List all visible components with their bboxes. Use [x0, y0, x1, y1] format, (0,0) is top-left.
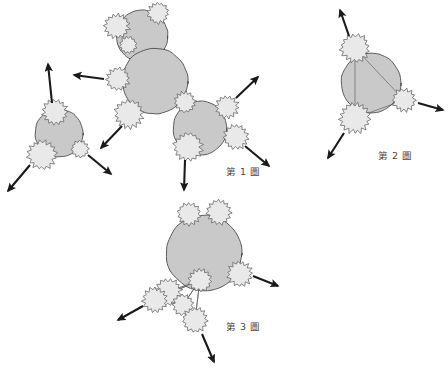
figure-2-caption: 第 2 圖 [378, 148, 413, 162]
direction-arrow [8, 165, 30, 191]
figure-3-caption: 第 3 圖 [226, 319, 261, 333]
satellite-particle [174, 91, 196, 113]
satellite-particle [183, 308, 209, 333]
direction-arrow [101, 126, 122, 148]
satellite-particle [223, 124, 249, 149]
direction-arrow [118, 306, 143, 320]
direction-arrow [340, 10, 349, 36]
satellite-particle [119, 36, 137, 53]
direction-arrow [48, 64, 52, 103]
direction-arrow [74, 75, 104, 79]
direction-arrow [184, 160, 185, 190]
direction-arrow [236, 77, 258, 98]
cell-body [341, 53, 401, 113]
direction-arrow [88, 155, 111, 174]
patent-figure-sheet [0, 0, 448, 374]
figure-1-caption: 第 1 圖 [226, 164, 261, 178]
direction-arrow [202, 334, 214, 362]
direction-arrow [245, 146, 269, 166]
direction-arrow [418, 103, 443, 110]
direction-arrow [328, 133, 344, 158]
direction-arrow [253, 276, 278, 286]
